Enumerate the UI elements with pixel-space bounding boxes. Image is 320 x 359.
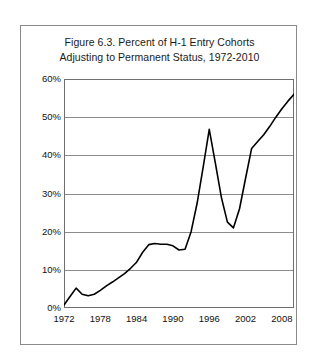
y-axis-tick-label: 40% (42, 150, 61, 160)
x-axis-tick-labels: 1972197819841990199620022008 (21, 314, 298, 334)
plot-area (64, 79, 294, 308)
y-axis-tick-labels: 0%10%20%30%40%50%60% (21, 26, 61, 346)
y-axis-tick-label: 20% (42, 227, 61, 237)
x-axis-tick-label: 2002 (235, 314, 256, 324)
x-axis-tick-label: 1990 (162, 314, 183, 324)
line-chart (64, 79, 294, 308)
figure-title-line-2: Adjusting to Permanent Status, 1972-2010 (21, 50, 298, 65)
x-axis-tick-label: 1978 (90, 314, 111, 324)
y-axis-tick-label: 30% (42, 189, 61, 199)
plot-border (65, 80, 294, 308)
figure-frame: Figure 6.3. Percent of H-1 Entry Cohorts… (20, 25, 297, 345)
figure-title-line-1: Figure 6.3. Percent of H-1 Entry Cohorts (21, 35, 298, 50)
x-axis-tick-label: 1972 (53, 314, 74, 324)
y-axis-tick-label: 10% (42, 265, 61, 275)
y-axis-tick-label: 0% (47, 303, 61, 313)
y-axis-tick-label: 60% (42, 74, 61, 84)
x-axis-tick-label: 2008 (271, 314, 292, 324)
x-axis-tick-label: 1996 (199, 314, 220, 324)
x-axis-tick-label: 1984 (126, 314, 147, 324)
y-axis-tick-label: 50% (42, 112, 61, 122)
figure-title: Figure 6.3. Percent of H-1 Entry Cohorts… (21, 35, 298, 65)
data-series-line (64, 94, 294, 305)
